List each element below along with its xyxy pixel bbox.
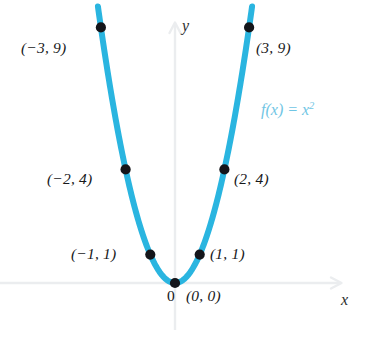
x-axis-label: x [341, 292, 348, 308]
function-equation-exponent: 2 [309, 100, 314, 111]
data-point [219, 164, 229, 174]
data-point [145, 250, 155, 260]
parabola-figure: (−3, 9) (−2, 4) (−1, 1) (0, 0) (1, 1) (2… [0, 0, 381, 342]
y-axis-label: y [182, 18, 189, 34]
function-equation-base: f(x) = x [261, 101, 309, 118]
point-label-minus2-4: (−2, 4) [47, 171, 92, 187]
point-label-2-4: (2, 4) [234, 171, 269, 187]
point-label-1-1: (1, 1) [210, 246, 245, 262]
data-point [195, 250, 205, 260]
origin-tick-label: 0 [167, 288, 175, 304]
point-label-3-9: (3, 9) [256, 40, 291, 56]
data-point [96, 22, 106, 32]
point-label-minus3-9: (−3, 9) [21, 40, 66, 56]
function-equation-label: f(x) = x2 [261, 102, 314, 118]
data-point [121, 164, 131, 174]
point-label-0-0: (0, 0) [186, 288, 221, 304]
point-label-minus1-1: (−1, 1) [71, 246, 116, 262]
data-point [244, 22, 254, 32]
